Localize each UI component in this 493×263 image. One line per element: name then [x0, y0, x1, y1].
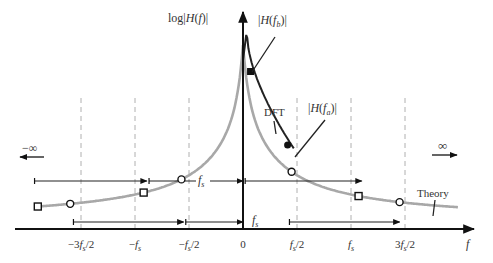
leader-theory	[433, 200, 435, 216]
theory-curve	[35, 45, 458, 207]
annotation-h-fb: |H(fb)|	[258, 13, 287, 29]
leader-h-fa	[295, 120, 325, 157]
tick-label-5: fs	[348, 238, 354, 253]
tick-label-6: 3fs/2	[395, 238, 415, 253]
filled-circle-marker	[284, 142, 291, 149]
annotation-h-fa: |H(fa)|	[308, 101, 337, 117]
circle-marker-0	[67, 200, 74, 207]
circle-marker-3	[396, 199, 403, 206]
square-marker-1	[140, 189, 147, 196]
square-marker-2	[355, 193, 362, 200]
circle-marker-2	[288, 168, 295, 175]
tick-label-4: fs/2	[290, 238, 305, 253]
tick-label-1: −fs	[129, 238, 141, 253]
neg-infinity-label: −∞	[22, 141, 37, 155]
markers	[34, 68, 403, 210]
tick-label-3: 0	[240, 238, 246, 250]
circle-marker-1	[178, 176, 185, 183]
annotation-theory: Theory	[417, 187, 449, 199]
tick-labels: −3fs/2−fs−fs/20fs/2fs3fs/2	[68, 238, 415, 253]
leader-dft	[274, 121, 276, 134]
tick-label-0: −3fs/2	[68, 238, 94, 253]
pos-infinity-label: ∞	[438, 138, 447, 153]
dft-curve	[243, 35, 294, 148]
figure-canvas: fsfs log|H(f)| f −3fs/2−fs−fs/20fs/2fs3f…	[0, 0, 493, 263]
square-marker-0	[34, 203, 41, 210]
tick-label-2: −fs/2	[179, 238, 200, 253]
annotation-dft: DFT	[264, 106, 285, 118]
y-axis-label: log|H(f)|	[168, 11, 208, 25]
x-axis-label: f	[466, 237, 471, 251]
leader-h-fb	[252, 37, 275, 72]
